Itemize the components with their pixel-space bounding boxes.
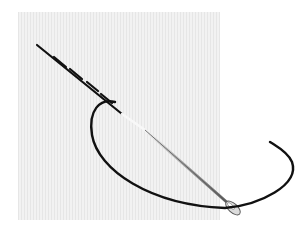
sewing-illustration: needle sewing a running stitch through f… [0,0,305,245]
fabric-square [18,12,220,220]
needle-and-thread-graphic [0,0,305,245]
